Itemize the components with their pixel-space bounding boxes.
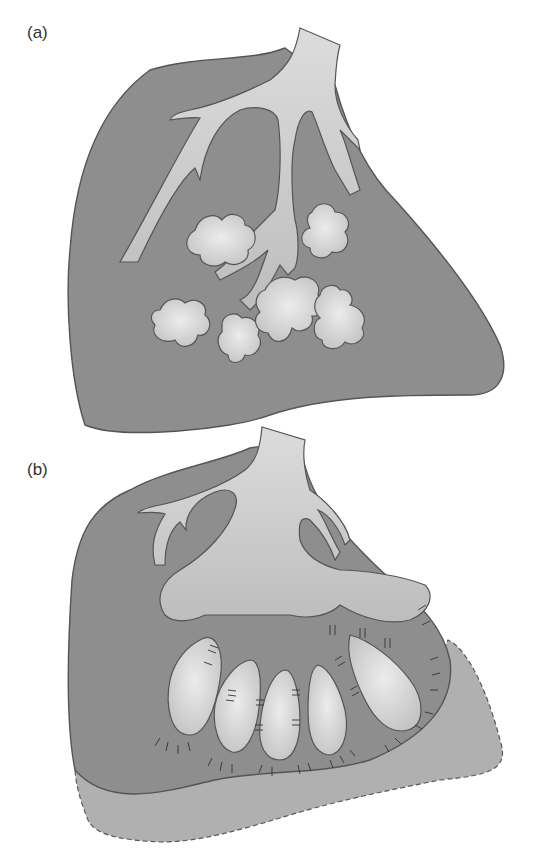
diagram-canvas — [0, 0, 536, 854]
panel-b — [68, 427, 502, 842]
bronchus-b — [138, 427, 430, 622]
panel-a — [68, 28, 504, 432]
